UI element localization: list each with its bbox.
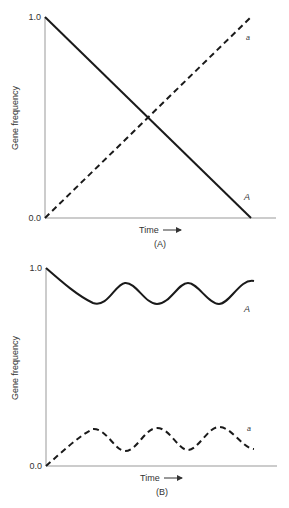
series-label-a: a xyxy=(246,34,250,41)
panel-label: (A) xyxy=(154,239,166,249)
x-axis-label: Time xyxy=(139,225,159,235)
y-tick-top: 1.0 xyxy=(28,12,41,22)
y-tick-bottom: 0.0 xyxy=(29,461,42,471)
panel-label: (B) xyxy=(156,487,168,497)
series-label-A: A xyxy=(243,304,250,314)
series-a-line xyxy=(46,427,254,466)
series-label-a: a xyxy=(247,425,251,432)
panel-b: 1.0 0.0 Gene frequency A a Time (B) xyxy=(10,263,277,497)
x-axis-label: Time xyxy=(140,473,160,483)
series-A-line xyxy=(46,268,254,304)
y-axis-label: Gene frequency xyxy=(10,85,20,150)
y-axis-label: Gene frequency xyxy=(10,335,20,400)
figure: 1.0 0.0 Gene frequency A a Time (A) 1.0 … xyxy=(0,0,289,508)
y-tick-top: 1.0 xyxy=(29,263,42,273)
y-tick-bottom: 0.0 xyxy=(28,213,41,223)
series-label-A: A xyxy=(243,192,250,202)
panel-a: 1.0 0.0 Gene frequency A a Time (A) xyxy=(10,12,276,249)
